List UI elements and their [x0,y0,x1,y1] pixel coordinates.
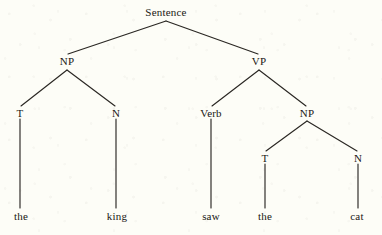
tree-branch-NP2-to-N2 [307,121,357,151]
tree-branch-VP-to-NP2 [259,70,306,106]
tree-node-n1: N [112,108,120,119]
tree-node-vp: VP [252,56,266,67]
tree-branch-S-to-NP1 [68,21,166,54]
tree-branch-NP1-to-T1 [21,70,67,106]
tree-branch-S-to-VP [166,21,258,54]
tree-node-t1: T [17,108,24,119]
tree-leaf-w-the1: the [14,211,28,222]
tree-node-t2: T [262,153,269,164]
tree-node-n2: N [354,153,362,164]
tree-leaf-w-cat: cat [350,211,363,222]
tree-node-verb: Verb [200,108,222,119]
syntax-tree-canvas [0,0,382,235]
tree-leaf-w-king: king [107,211,127,222]
tree-node-np2: NP [300,108,314,119]
tree-node-s: Sentence [145,7,186,18]
tree-branch-VP-to-Verb [212,70,259,106]
tree-leaf-w-the2: the [258,211,272,222]
tree-branch-NP1-to-N1 [67,70,115,106]
tree-branch-NP2-to-T2 [266,121,307,151]
tree-node-np1: NP [60,56,74,67]
tree-leaf-w-saw: saw [202,211,220,222]
